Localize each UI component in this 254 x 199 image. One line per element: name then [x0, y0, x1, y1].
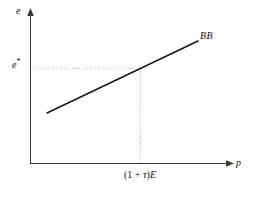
x-tick-prefix: (1 + [124, 169, 143, 180]
bb-curve [47, 41, 198, 113]
y-tick-label-e-star: e* [12, 60, 20, 70]
x-tick-italic-tail: E [150, 169, 156, 180]
bb-curve-label: BB [200, 31, 213, 41]
y-axis-label: e [16, 6, 20, 16]
y-tick-label-superscript: * [16, 57, 20, 66]
x-tick-label: (1 + τ)E [124, 169, 156, 180]
y-axis-arrowhead-icon [27, 8, 34, 16]
x-axis-label: p [236, 158, 241, 168]
x-axis-arrowhead-icon [226, 160, 234, 167]
figure-canvas: e p e* BB (1 + τ)E [0, 0, 254, 199]
x-tick-label-row: (1 + τ)E [0, 170, 254, 180]
